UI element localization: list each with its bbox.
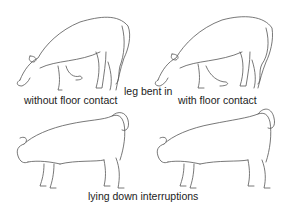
label-leg-bent-in: leg bent in (124, 85, 172, 97)
label-lying-down-interruptions: lying down interruptions (88, 190, 198, 202)
label-without-floor-contact: without floor contact (24, 94, 117, 106)
figure: without floor contact leg bent in with f… (0, 0, 288, 211)
label-with-floor-contact: with floor contact (178, 94, 257, 106)
